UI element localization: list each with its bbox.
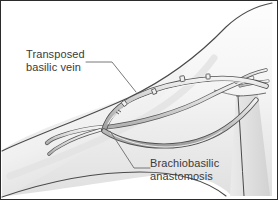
clip-3 [180,76,185,82]
label-anastomosis-line1: Brachiobasilic [150,157,219,170]
leader-transposed-vein [86,62,136,92]
illustration-canvas [0,0,278,200]
label-transposed-basilic-vein: Transposed basilic vein [26,48,85,73]
label-transposed-line1: Transposed [26,48,85,61]
label-transposed-line2: basilic vein [26,61,85,74]
label-brachiobasilic-anastomosis: Brachiobasilic anastomosis [150,157,219,182]
medical-illustration-figure: Transposed basilic vein Brachiobasilic a… [0,0,278,200]
label-anastomosis-line2: anastomosis [150,170,219,183]
clip-4 [206,74,210,79]
